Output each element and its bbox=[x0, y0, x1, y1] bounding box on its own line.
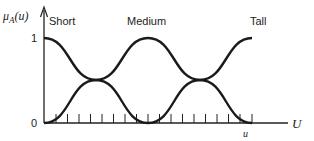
y-tick-1: 1 bbox=[31, 32, 37, 44]
legend-short: Short bbox=[49, 15, 75, 27]
y-tick-0: 0 bbox=[31, 117, 37, 129]
x-axis-label: U bbox=[292, 116, 303, 131]
membership-function-chart: μA(u) 1 0 Short Medium Tall U u bbox=[0, 0, 314, 141]
legend-tall: Tall bbox=[250, 15, 267, 27]
medium-curve bbox=[44, 38, 252, 123]
legend-medium: Medium bbox=[127, 15, 166, 27]
x-marker-label: u bbox=[243, 128, 248, 139]
y-axis-label: μA(u) bbox=[2, 9, 29, 25]
tall-curve bbox=[148, 38, 252, 123]
